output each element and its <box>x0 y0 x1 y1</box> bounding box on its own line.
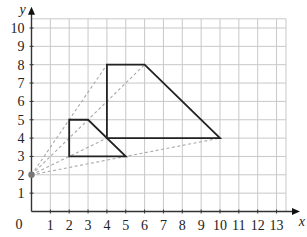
y-tick-label: 8 <box>18 58 25 73</box>
shapes <box>28 65 220 178</box>
x-tick-label: 5 <box>122 218 129 233</box>
tick-labels: 12345678910111213123456789100xy <box>11 2 306 233</box>
y-tick-label: 7 <box>18 76 25 91</box>
x-tick-label: 3 <box>85 218 92 233</box>
x-tick-label: 12 <box>251 218 265 233</box>
x-tick-label: 10 <box>213 218 227 233</box>
x-tick-label: 9 <box>198 218 205 233</box>
y-tick-label: 2 <box>18 168 25 183</box>
y-tick-label: 1 <box>18 186 25 201</box>
origin-label: 0 <box>16 217 23 232</box>
x-tick-label: 11 <box>232 218 245 233</box>
y-tick-label: 5 <box>18 113 25 128</box>
x-axis-label: x <box>298 214 306 229</box>
y-axis-arrow-icon <box>28 7 35 15</box>
y-axis-label: y <box>17 2 26 17</box>
grid-lines <box>32 19 286 212</box>
y-tick-label: 3 <box>18 149 25 164</box>
x-tick-label: 13 <box>270 218 284 233</box>
x-tick-label: 1 <box>47 218 54 233</box>
center-of-enlargement-point <box>28 172 34 178</box>
x-tick-label: 4 <box>103 218 110 233</box>
y-tick-label: 4 <box>18 131 25 146</box>
x-tick-label: 8 <box>179 218 186 233</box>
x-tick-label: 7 <box>160 218 167 233</box>
x-tick-label: 6 <box>141 218 148 233</box>
y-tick-label: 6 <box>18 94 25 109</box>
y-tick-label: 10 <box>11 21 25 36</box>
coordinate-grid-diagram: 12345678910111213123456789100xy <box>0 0 307 237</box>
y-tick-label: 9 <box>18 39 25 54</box>
x-tick-label: 2 <box>66 218 73 233</box>
